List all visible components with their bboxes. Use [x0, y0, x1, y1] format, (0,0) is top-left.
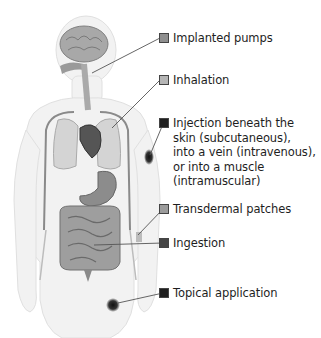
label-transdermal-patches: Transdermal patches — [159, 202, 291, 217]
label-text: Topical application — [173, 286, 277, 301]
label-implanted-pumps: Implanted pumps — [159, 31, 273, 46]
drug-routes-diagram: Implanted pumps Inhalation Injection ben… — [0, 0, 321, 338]
label-text: Ingestion — [173, 236, 225, 251]
injection-site-icon — [144, 149, 154, 165]
topical-site-icon — [106, 298, 120, 312]
brain-icon — [60, 26, 108, 62]
label-ingestion: Ingestion — [159, 236, 225, 251]
label-injection: Injection beneath the skin (subcutaneous… — [159, 116, 316, 189]
label-text: Implanted pumps — [173, 31, 273, 46]
label-text: Inhalation — [173, 73, 229, 88]
swatch-icon — [159, 238, 169, 248]
swatch-icon — [159, 288, 169, 298]
swatch-icon — [159, 118, 169, 128]
swatch-icon — [159, 33, 169, 43]
swatch-icon — [159, 75, 169, 85]
label-inhalation: Inhalation — [159, 73, 229, 88]
swatch-icon — [159, 204, 169, 214]
label-text: Transdermal patches — [173, 202, 291, 217]
label-text: Injection beneath the skin (subcutaneous… — [173, 116, 316, 189]
label-topical-application: Topical application — [159, 286, 277, 301]
